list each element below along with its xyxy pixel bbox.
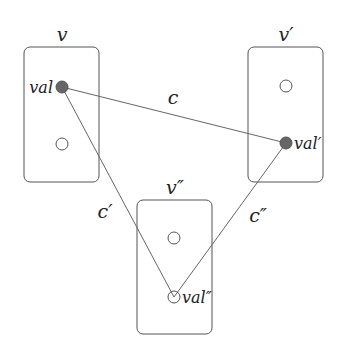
vertex-label-v-double-prime: v″ — [166, 176, 184, 198]
node-label-val: val — [29, 78, 53, 97]
node-val-prime-filled — [280, 137, 292, 149]
vertex-box-v-prime — [248, 47, 323, 182]
edge-label-c-double-prime: c″ — [249, 204, 267, 226]
vertex-box-v-double-prime — [137, 200, 212, 334]
edge-c-double-prime — [174, 143, 286, 297]
vertex-label-v: v — [57, 23, 68, 45]
node-v-empty — [56, 138, 68, 150]
edge-label-c-prime: c′ — [98, 200, 114, 222]
node-label-val-prime: val′ — [294, 134, 322, 153]
node-v-prime-empty — [280, 80, 292, 92]
constraint-diagram: v v′ v″ c c′ c″ val val′ val″ — [0, 0, 348, 352]
edge-c-prime — [62, 87, 174, 297]
vertex-label-v-prime: v′ — [278, 23, 294, 45]
node-label-val-double-prime: val″ — [182, 288, 212, 307]
node-val-filled — [56, 81, 68, 93]
edge-label-c: c — [168, 86, 179, 108]
node-v-double-prime-empty — [168, 232, 180, 244]
vertex-box-v — [24, 47, 99, 182]
